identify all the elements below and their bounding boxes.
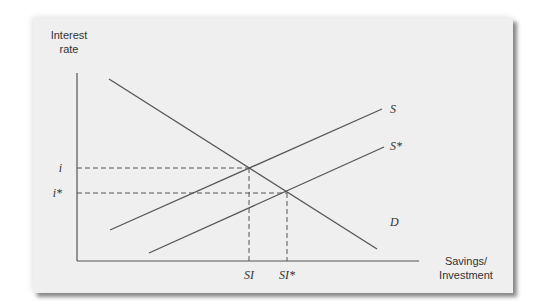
y-axis-title: Interest [51,29,88,41]
supply-demand-chart: iSIi*SI*SS*DInterestrateSavings/Investme… [0,0,545,307]
curve-label: S [390,102,396,116]
x-tick-label: SI [244,268,255,282]
curves [109,79,384,253]
x-tick-label: SI* [279,268,295,282]
y-tick-label: i [59,161,62,175]
y-tick-label: i* [53,186,62,200]
curve-label: D [389,215,399,229]
curve-label: S* [390,139,402,153]
x-axis-title: Savings/ [445,255,488,267]
labels: iSIi*SI*SS*DInterestrateSavings/Investme… [51,29,493,282]
curve-d [109,79,377,249]
y-axis-title: rate [60,43,79,55]
curve-s [110,109,382,230]
curve-s-star [149,147,384,253]
x-axis-title: Investment [439,269,493,281]
dashed-guides [77,168,287,261]
